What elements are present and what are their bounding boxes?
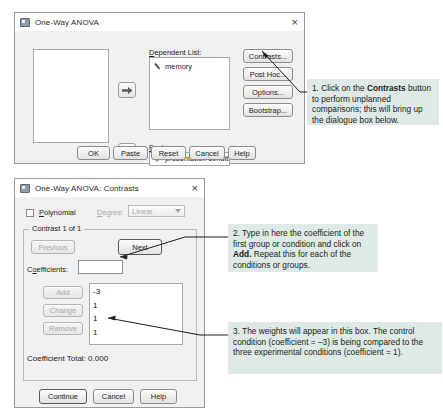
paste-button-label: Paste xyxy=(121,149,140,158)
source-variable-list[interactable] xyxy=(33,49,109,143)
coefficient-total-label: Coefficient Total: 0.000 xyxy=(27,354,108,363)
coefficients-label: Coefficients: xyxy=(27,265,68,274)
next-button[interactable]: Next xyxy=(118,239,162,255)
ok-button[interactable]: OK xyxy=(77,146,110,160)
degree-select-value: Linear xyxy=(132,207,153,216)
ruler-variable-icon xyxy=(153,62,162,71)
degree-label: Degree: xyxy=(97,208,124,217)
add-button-label: Add xyxy=(56,288,69,297)
chevron-down-icon xyxy=(175,209,181,213)
move-to-dependent-button[interactable] xyxy=(118,82,136,98)
dependent-list-label-rest: ependent List: xyxy=(154,48,201,57)
dependent-list-label: Dependent List: xyxy=(149,48,202,57)
previous-button[interactable]: Previous xyxy=(31,240,75,254)
coefficient-row[interactable]: 1 xyxy=(90,311,182,325)
dialog-body: Dependent List: memory Factor: xyxy=(15,31,304,163)
contrasts-dialog: One-Way ANOVA: Contrasts × Polynomial De… xyxy=(14,178,205,408)
annotation-1-text: 1. Click on the Contrasts button to perf… xyxy=(312,83,431,125)
dependent-variable-name: memory xyxy=(165,62,192,71)
degree-select[interactable]: Linear xyxy=(128,205,185,217)
help-button[interactable]: Help xyxy=(228,146,256,160)
contrasts-help-button-label: Help xyxy=(151,392,166,401)
annotation-1: 1. Click on the Contrasts button to perf… xyxy=(307,79,439,125)
coefficient-row[interactable]: 1 xyxy=(90,298,182,312)
spss-app-icon xyxy=(20,17,31,28)
change-button[interactable]: Change xyxy=(43,304,83,317)
continue-button-label: Continue xyxy=(48,392,78,401)
add-button[interactable]: Add xyxy=(43,286,83,299)
post-hoc-button[interactable]: Post Hoc... xyxy=(243,67,293,81)
contrasts-dialog-titlebar[interactable]: One-Way ANOVA: Contrasts × xyxy=(15,179,204,197)
help-button-label: Help xyxy=(234,149,249,158)
bootstrap-button-label: Bootstrap... xyxy=(249,106,287,115)
coefficients-list-box[interactable]: -3 1 1 1 xyxy=(89,283,183,345)
remove-button-label: Remove xyxy=(49,324,77,333)
remove-button[interactable]: Remove xyxy=(43,322,83,335)
contrasts-button[interactable]: Contrasts... xyxy=(243,49,293,63)
annotation-2-text: 2. Type in here the coefficient of the f… xyxy=(233,228,364,270)
bootstrap-button[interactable]: Bootstrap... xyxy=(243,103,293,117)
right-arrow-icon xyxy=(122,86,133,95)
paste-button[interactable]: Paste xyxy=(113,146,148,160)
contrasts-cancel-button-label: Cancel xyxy=(102,392,125,401)
options-button[interactable]: Options... xyxy=(243,85,293,99)
annotation-3-text: 3. The weights will appear in this box. … xyxy=(233,326,423,357)
contrasts-button-label: Contrasts... xyxy=(249,52,287,61)
polynomial-label: Polynomial xyxy=(39,208,76,217)
coefficients-input[interactable] xyxy=(78,260,123,274)
contrasts-dialog-title: One-Way ANOVA: Contrasts xyxy=(35,184,139,193)
cancel-button-label: Cancel xyxy=(195,149,218,158)
reset-button[interactable]: Reset xyxy=(151,146,186,160)
list-item[interactable]: memory xyxy=(150,61,229,72)
contrast-group-title: Contrast 1 of 1 xyxy=(29,224,84,233)
dialog-titlebar[interactable]: One-Way ANOVA × xyxy=(15,13,304,31)
change-button-label: Change xyxy=(50,306,76,315)
close-icon[interactable]: × xyxy=(290,17,300,28)
dialog-title: One-Way ANOVA xyxy=(35,18,99,27)
contrasts-cancel-button[interactable]: Cancel xyxy=(93,389,134,404)
next-button-label: Next xyxy=(132,243,147,252)
annotation-2: 2. Type in here the coefficient of the f… xyxy=(228,224,378,272)
polynomial-checkbox[interactable] xyxy=(26,209,34,217)
coefficient-row[interactable]: 1 xyxy=(90,325,182,339)
dependent-list-box[interactable]: memory xyxy=(149,57,230,130)
cancel-button[interactable]: Cancel xyxy=(189,146,225,160)
spss-app-icon xyxy=(20,183,31,194)
contrasts-dialog-body: Polynomial Degree: Linear Contrast 1 of … xyxy=(15,197,204,407)
close-icon[interactable]: × xyxy=(190,183,200,194)
options-button-label: Options... xyxy=(252,88,284,97)
annotation-3: 3. The weights will appear in this box. … xyxy=(228,322,442,374)
contrasts-help-button[interactable]: Help xyxy=(140,389,177,404)
coefficient-total-value: 0.000 xyxy=(88,354,108,363)
post-hoc-button-label: Post Hoc... xyxy=(250,70,287,79)
reset-button-label: Reset xyxy=(159,149,179,158)
coefficient-row[interactable]: -3 xyxy=(90,284,182,298)
ok-button-label: OK xyxy=(88,149,99,158)
previous-button-label: Previous xyxy=(38,243,67,252)
continue-button[interactable]: Continue xyxy=(39,389,87,404)
one-way-anova-dialog: One-Way ANOVA × Dependent List: xyxy=(14,12,305,164)
